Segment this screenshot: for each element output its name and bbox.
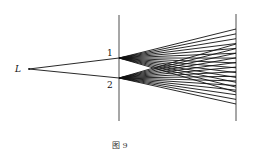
source-point bbox=[28, 68, 30, 70]
slit-2-label: 2 bbox=[107, 80, 113, 90]
source-label: L bbox=[14, 64, 21, 74]
double-slit-diagram: L 1 2 图 9 bbox=[0, 0, 253, 159]
slit-1-label: 1 bbox=[107, 48, 113, 58]
figure-caption: 图 9 bbox=[112, 141, 128, 150]
source-ray-1 bbox=[29, 58, 119, 69]
slit-1-ray-3 bbox=[119, 39, 236, 58]
source-ray-2 bbox=[29, 69, 119, 78]
